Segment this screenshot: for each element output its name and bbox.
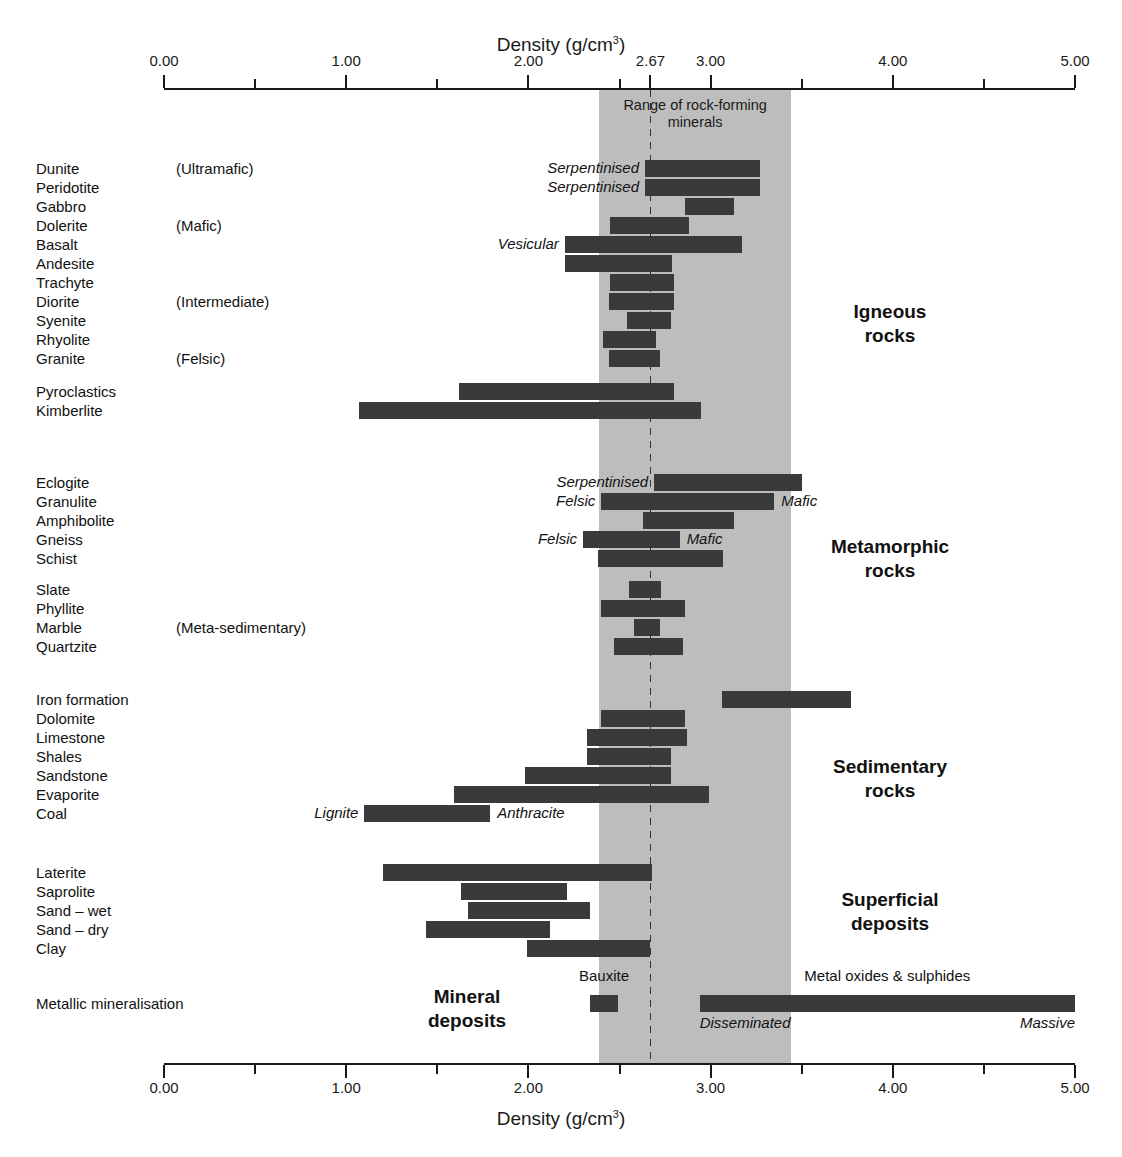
density-bar-dolerite <box>610 217 688 234</box>
axis-tick-minor <box>619 1065 621 1074</box>
density-bar-slate <box>629 581 662 598</box>
axis-tick-label: 3.00 <box>696 52 725 69</box>
axis-tick-label: 2.00 <box>514 52 543 69</box>
axis-tick-minor <box>983 79 985 88</box>
annotation-left-basalt: Vesicular <box>498 235 559 252</box>
row-label-sand-wet: Sand – wet <box>36 902 111 919</box>
density-bar-diorite <box>609 293 675 310</box>
density-bar-trachyte <box>610 274 674 291</box>
density-bar-kimberlite <box>359 402 702 419</box>
row-label-andesite: Andesite <box>36 255 94 272</box>
row-label-syenite: Syenite <box>36 312 86 329</box>
density-bar-basalt <box>565 236 742 253</box>
row-label-saprolite: Saprolite <box>36 883 95 900</box>
row-label-granulite: Granulite <box>36 493 97 510</box>
axis-tick-minor <box>801 79 803 88</box>
annotation-right-oxides: Massive <box>1020 1014 1075 1031</box>
density-bar-shales <box>587 748 671 765</box>
row-label-peridotite: Peridotite <box>36 179 99 196</box>
annotation-left-peridotite: Serpentinised <box>547 178 639 195</box>
row-label-iron formation: Iron formation <box>36 691 129 708</box>
row-label-amphibolite: Amphibolite <box>36 512 114 529</box>
density-bar-coal <box>364 805 490 822</box>
axis-tick-major <box>649 75 651 88</box>
axis-tick-major <box>527 75 529 88</box>
row-label-quartzite: Quartzite <box>36 638 97 655</box>
row-label-gabbro: Gabbro <box>36 198 86 215</box>
axis-tick-label-267: 2.67 <box>636 52 665 69</box>
annotation-left-eclogite: Serpentinised <box>556 473 648 490</box>
axis-tick-major <box>892 75 894 88</box>
caption-bauxite: Bauxite <box>579 967 629 984</box>
annotation-right-granulite: Mafic <box>781 492 817 509</box>
row-label-metallic-mineralisation: Metallic mineralisation <box>36 995 184 1012</box>
class-label-mineral: Mineral deposits <box>382 985 552 1033</box>
group-label-marble: (Meta-sedimentary) <box>176 619 306 636</box>
row-label-clay: Clay <box>36 940 66 957</box>
caption-oxides: Metal oxides & sulphides <box>804 967 970 984</box>
density-bar-granite <box>609 350 660 367</box>
row-label-laterite: Laterite <box>36 864 86 881</box>
band-caption: Range of rock-forming minerals <box>599 97 790 132</box>
density-bar-iron formation <box>722 691 851 708</box>
annotation-left-gneiss: Felsic <box>538 530 577 547</box>
row-label-granite: Granite <box>36 350 85 367</box>
density-bar-sandstone <box>525 767 671 784</box>
axis-tick-minor <box>801 1065 803 1074</box>
density-bar-laterite <box>383 864 653 881</box>
density-bar-syenite <box>627 312 671 329</box>
annotation-left-coal: Lignite <box>314 804 358 821</box>
row-label-schist: Schist <box>36 550 77 567</box>
group-label-dunite: (Ultramafic) <box>176 160 254 177</box>
axis-line <box>164 88 1075 90</box>
row-label-gneiss: Gneiss <box>36 531 83 548</box>
density-bar-dolomite <box>601 710 685 727</box>
axis-tick-major <box>527 1065 529 1078</box>
density-bar-evaporite <box>454 786 709 803</box>
row-label-coal: Coal <box>36 805 67 822</box>
density-bar-rhyolite <box>603 331 656 348</box>
density-bar-oxides <box>700 995 1075 1012</box>
density-bar-dunite <box>645 160 760 177</box>
axis-tick-major <box>710 1065 712 1078</box>
axis-tick-label: 0.00 <box>149 52 178 69</box>
annotation-right-coal: Anthracite <box>497 804 565 821</box>
density-bar-andesite <box>565 255 672 272</box>
axis-tick-label: 2.00 <box>514 1079 543 1096</box>
density-bar-clay <box>527 940 651 957</box>
axis-tick-major <box>710 75 712 88</box>
row-label-rhyolite: Rhyolite <box>36 331 90 348</box>
density-bar-granulite <box>601 493 774 510</box>
axis-tick-major <box>1074 1065 1076 1078</box>
density-bar-peridotite <box>645 179 760 196</box>
axis-tick-major <box>345 1065 347 1078</box>
density-bar-gabbro <box>685 198 734 215</box>
density-bar-quartzite <box>614 638 683 655</box>
row-label-dunite: Dunite <box>36 160 79 177</box>
density-bar-eclogite <box>654 474 802 491</box>
density-bar-marble <box>634 619 660 636</box>
density-bar-limestone <box>587 729 687 746</box>
axis-tick-label: 5.00 <box>1060 52 1089 69</box>
axis-tick-label: 4.00 <box>878 1079 907 1096</box>
axis-tick-major <box>892 1065 894 1078</box>
row-label-pyroclastics: Pyroclastics <box>36 383 116 400</box>
axis-tick-label: 3.00 <box>696 1079 725 1096</box>
group-label-diorite: (Intermediate) <box>176 293 269 310</box>
group-label-granite: (Felsic) <box>176 350 225 367</box>
axis-tick-minor <box>436 1065 438 1074</box>
row-label-trachyte: Trachyte <box>36 274 94 291</box>
row-label-phyllite: Phyllite <box>36 600 84 617</box>
axis-tick-minor <box>254 79 256 88</box>
density-bar-sand-wet <box>468 902 590 919</box>
row-label-sand-dry: Sand – dry <box>36 921 109 938</box>
class-label-igneous: Igneous rocks <box>805 300 975 348</box>
row-label-basalt: Basalt <box>36 236 78 253</box>
density-bar-sand-dry <box>426 921 550 938</box>
density-bar-amphibolite <box>643 512 734 529</box>
row-label-kimberlite: Kimberlite <box>36 402 103 419</box>
annotation-right-gneiss: Mafic <box>687 530 723 547</box>
axis-tick-major <box>1074 75 1076 88</box>
axis-tick-label: 4.00 <box>878 52 907 69</box>
axis-tick-minor <box>619 79 621 88</box>
